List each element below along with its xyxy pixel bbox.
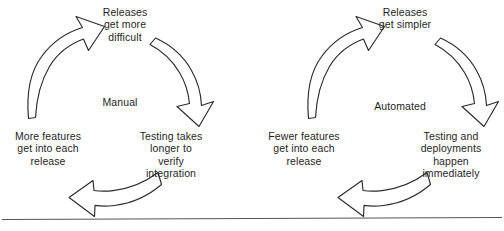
automated-node-left-label: Fewer features get into each release [252,130,356,167]
automated-node-top-label: Releases get simpler [350,6,460,31]
manual-cycle-center-label: Manual [72,96,168,108]
manual-arrow-top-right-shape [150,38,214,127]
automated-cycle-center-label: Automated [352,100,448,112]
manual-node-right-label: Testing takes longer to verify integrati… [124,130,218,180]
manual-node-left-label: More features get into each release [0,130,98,167]
manual-node-top-label: Releases get more difficult [70,6,180,43]
diagram-root: Releases get more difficult Testing take… [0,0,504,231]
automated-node-right-label: Testing and deployments happen immediate… [404,130,498,180]
automated-arrow-top-right-shape [435,38,499,127]
baseline-divider [2,218,502,220]
